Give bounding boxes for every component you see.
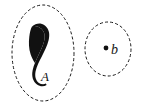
- math-diagram: A b: [0, 0, 141, 110]
- set-A-blob-body: [29, 26, 45, 63]
- label-b: b: [111, 42, 118, 57]
- label-A: A: [40, 69, 49, 84]
- point-b-dot: [104, 46, 109, 51]
- figure-container: A b: [0, 0, 141, 110]
